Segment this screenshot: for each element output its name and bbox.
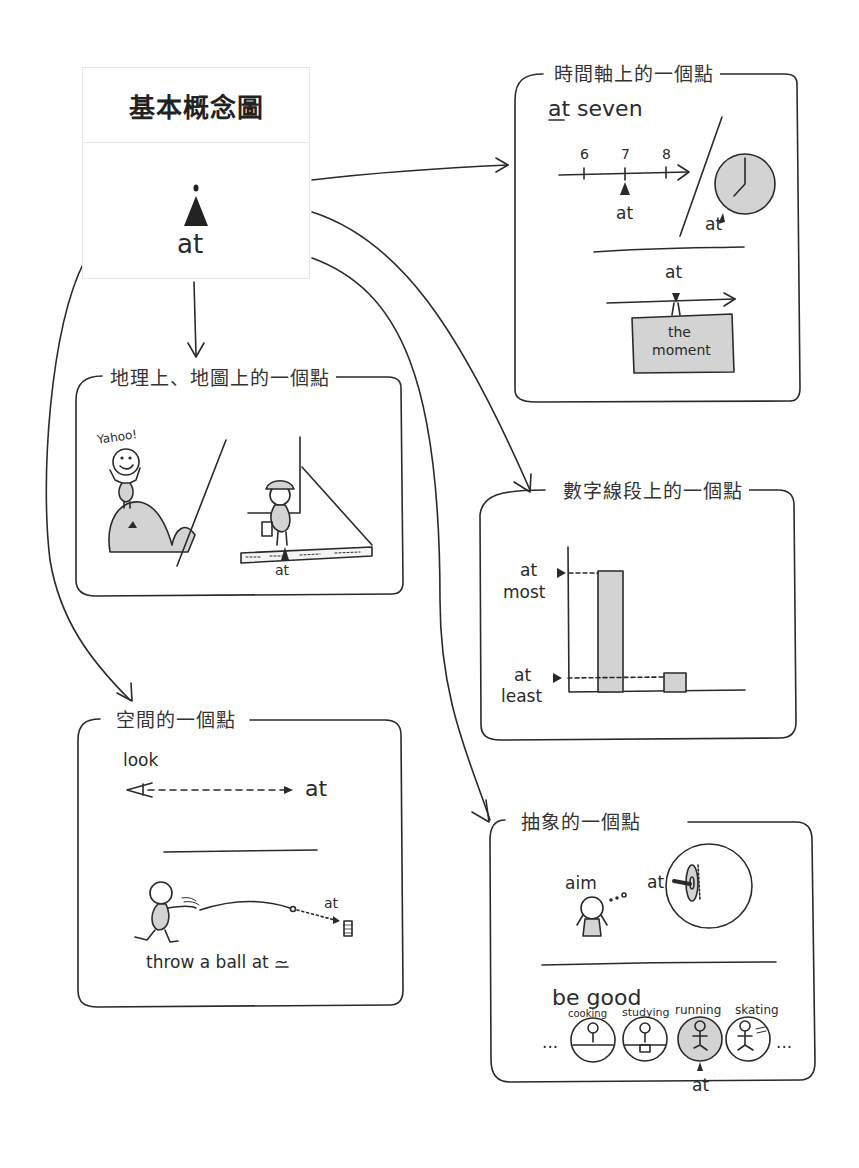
diagram-canvas: 基本概念圖 at 時間軸上的一個點 at seven 6 7 8 at at a… xyxy=(0,0,859,1168)
moment-at-label: at xyxy=(665,262,682,282)
abstract-panel-frame xyxy=(490,820,815,1082)
at-most-label-1: at xyxy=(520,560,537,580)
space-panel-title: 空間的一個點 xyxy=(110,708,242,732)
caption-suffix: ~ xyxy=(269,952,289,972)
tick-7: 7 xyxy=(621,146,630,162)
look-at-label: at xyxy=(305,776,327,801)
running-at-label: at xyxy=(692,1075,709,1095)
ellipsis-left: ... xyxy=(542,1032,558,1052)
geography-panel-drawing xyxy=(109,437,372,566)
at-least-label-2: least xyxy=(501,686,542,706)
at-most-label-2: most xyxy=(503,582,545,602)
main-concept-title: 基本概念圖 xyxy=(83,68,309,143)
caption-at: at xyxy=(252,952,269,972)
time-example: at seven xyxy=(548,96,643,121)
look-label: look xyxy=(123,750,158,770)
throw-at-label: at xyxy=(324,895,338,911)
timeline-at-label: at xyxy=(616,203,633,223)
moment-box-line1: the xyxy=(668,324,691,340)
ellipsis-right: ... xyxy=(776,1032,792,1052)
number-line-panel-drawing xyxy=(553,547,745,692)
geography-at-label: at xyxy=(275,562,289,578)
throw-caption: throw a ball at ~ xyxy=(146,952,288,972)
space-panel-drawing xyxy=(127,783,352,967)
activity-cooking: cooking xyxy=(568,1008,607,1019)
activity-running: running xyxy=(675,1003,721,1017)
main-concept-body: at xyxy=(83,143,309,278)
time-panel-title: 時間軸上的一個點 xyxy=(548,62,720,86)
at-least-label-1: at xyxy=(514,665,531,685)
abstract-panel-title: 抽象的一個點 xyxy=(515,810,647,834)
activity-studying: studying xyxy=(622,1006,670,1019)
bubble-at-label: at xyxy=(647,872,664,892)
activity-skating: skating xyxy=(735,1003,779,1017)
moment-box-line2: moment xyxy=(652,342,711,358)
tick-6: 6 xyxy=(580,146,589,162)
geography-panel-title: 地理上、地圖上的一個點 xyxy=(104,366,336,390)
main-concept-word: at xyxy=(177,229,203,259)
tick-8: 8 xyxy=(662,146,671,162)
number-line-panel-title: 數字線段上的一個點 xyxy=(557,479,749,503)
main-concept-box: 基本概念圖 at xyxy=(82,67,310,279)
caption-prefix: throw a ball xyxy=(146,952,252,972)
aim-label: aim xyxy=(565,873,597,893)
clock-at-label: at xyxy=(705,214,722,234)
